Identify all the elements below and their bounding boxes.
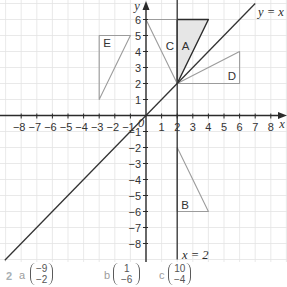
question-number: 2 bbox=[6, 270, 12, 282]
x-tick-label: −5 bbox=[60, 121, 73, 133]
x-tick-label: 7 bbox=[252, 121, 258, 133]
x-tick-label: 1 bbox=[159, 121, 165, 133]
x-tick-label: −3 bbox=[91, 121, 104, 133]
answer-c-letter: c bbox=[159, 269, 165, 281]
answer-a-vector: −9 −2 bbox=[30, 263, 53, 286]
vector-bottom: −2 bbox=[36, 275, 47, 286]
right-parenthesis bbox=[135, 263, 140, 285]
y-tick-label: 1 bbox=[135, 94, 141, 106]
y-tick-label: 4 bbox=[135, 46, 141, 58]
right-parenthesis bbox=[48, 263, 53, 285]
vector-values: 1 −6 bbox=[118, 263, 135, 286]
y-tick-label: 5 bbox=[135, 30, 141, 42]
y-tick-label: −5 bbox=[128, 190, 141, 202]
triangle-label-c: C bbox=[166, 40, 174, 52]
x-tick-label: 4 bbox=[205, 121, 211, 133]
answer-b-letter: b bbox=[104, 269, 110, 281]
triangle-label-d: D bbox=[228, 70, 236, 82]
vector-bottom: −6 bbox=[121, 275, 132, 286]
y-tick-label: 2 bbox=[135, 78, 141, 90]
y-axis-label: y bbox=[132, 0, 140, 13]
triangle-label-a: A bbox=[182, 40, 190, 52]
y-tick-label: −8 bbox=[128, 238, 141, 250]
origin-label: 0 bbox=[138, 117, 145, 129]
x-tick-label: 5 bbox=[221, 121, 227, 133]
x-axis-label: x bbox=[278, 117, 285, 131]
y-tick-label: 3 bbox=[135, 62, 141, 74]
answer-a-letter: a bbox=[19, 269, 25, 281]
x-tick-label: −8 bbox=[13, 121, 26, 133]
line-y-equals-x-label: y = x bbox=[256, 5, 284, 19]
x-tick-label: 6 bbox=[237, 121, 243, 133]
vector-top: 10 bbox=[174, 264, 185, 275]
y-tick-label: −4 bbox=[128, 174, 141, 186]
x-tick-label: 2 bbox=[174, 121, 180, 133]
x-tick-label: −7 bbox=[29, 121, 42, 133]
labels: ABCDEy = xx = 2−8−7−6−5−4−3−2−1123456786… bbox=[13, 0, 285, 262]
x-tick-label: −2 bbox=[107, 121, 120, 133]
page: ABCDEy = xx = 2−8−7−6−5−4−3−2−1123456786… bbox=[0, 0, 287, 287]
x-tick-label: −4 bbox=[75, 121, 88, 133]
line-x-equals-2-label: x = 2 bbox=[181, 248, 208, 262]
x-tick-label: −6 bbox=[44, 121, 57, 133]
answer-c-vector: 10 −4 bbox=[168, 263, 191, 286]
y-tick-label: −6 bbox=[128, 206, 141, 218]
right-parenthesis bbox=[186, 263, 191, 285]
vector-values: −9 −2 bbox=[35, 263, 48, 286]
vector-bottom: −4 bbox=[174, 275, 185, 286]
y-tick-label: −3 bbox=[128, 158, 141, 170]
answer-b-vector: 1 −6 bbox=[113, 263, 140, 286]
y-axis-arrow-icon bbox=[143, 1, 150, 10]
x-tick-label: 3 bbox=[190, 121, 196, 133]
vector-top: 1 bbox=[124, 264, 130, 275]
vector-top: −9 bbox=[36, 264, 47, 275]
triangle-label-b: B bbox=[181, 199, 189, 211]
answer-row: 2 a −9 −2 b 1 −6 c 10 −4 bbox=[0, 262, 287, 287]
y-tick-label: 6 bbox=[135, 14, 141, 26]
x-tick-label: 8 bbox=[268, 121, 274, 133]
triangle-label-e: E bbox=[103, 37, 111, 49]
y-tick-label: −7 bbox=[128, 222, 141, 234]
y-tick-label: −2 bbox=[128, 142, 141, 154]
coordinate-grid-diagram: ABCDEy = xx = 2−8−7−6−5−4−3−2−1123456786… bbox=[0, 0, 287, 262]
vector-values: 10 −4 bbox=[173, 263, 186, 286]
